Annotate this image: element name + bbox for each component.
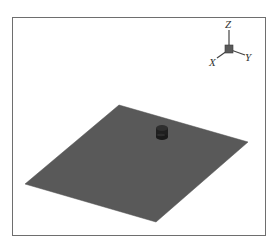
axis-triad: Z Y X [208,18,253,68]
cylinder-object[interactable] [156,125,168,140]
y-axis-label: Y [245,51,253,63]
ground-plane [25,105,248,222]
z-axis-label: Z [225,18,232,30]
axis-origin-cube [225,45,233,53]
3d-scene[interactable]: Z Y X [0,0,275,248]
x-axis-label: X [208,56,217,68]
